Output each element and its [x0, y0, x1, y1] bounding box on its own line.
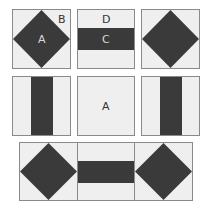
diamond-shape: [142, 10, 199, 68]
dark-band: [160, 77, 182, 135]
block-horizontal-band-1: D C: [77, 9, 135, 69]
dark-band: [31, 77, 53, 135]
block-vertical-band-1: [12, 76, 71, 136]
label-a: A: [102, 101, 110, 112]
label-c: C: [102, 34, 110, 45]
block-square-in-square-2: [141, 9, 200, 69]
label-b: B: [58, 14, 66, 25]
label-d: D: [102, 14, 110, 25]
segment-square-in-square-left: [20, 143, 77, 200]
segment-horizontal-band: [77, 143, 135, 200]
diamond-shape: [20, 143, 77, 200]
diamond-shape: [135, 143, 192, 200]
dark-band: [78, 161, 134, 183]
label-a: A: [38, 34, 46, 45]
block-vertical-band-2: [141, 76, 200, 136]
block-plain: A: [77, 76, 135, 136]
segment-square-in-square-right: [135, 143, 192, 200]
block-square-in-square-1: A B: [12, 9, 71, 69]
bottom-row-assembly: [19, 142, 193, 201]
